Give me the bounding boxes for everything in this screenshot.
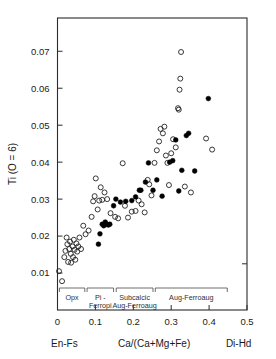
data-point-open xyxy=(169,151,174,156)
x-tick-label: 0 xyxy=(55,316,60,327)
data-point-filled xyxy=(98,231,103,236)
data-point-open xyxy=(188,190,193,195)
y-tick-label: 0.07 xyxy=(31,46,50,57)
filled-circle-series xyxy=(96,96,211,246)
field-bracket xyxy=(87,288,114,292)
data-point-open xyxy=(166,183,171,188)
field-bracket xyxy=(155,288,227,292)
data-point-filled xyxy=(133,195,138,200)
data-point-filled xyxy=(129,198,134,203)
data-point-open xyxy=(139,202,144,207)
data-point-open xyxy=(162,124,167,129)
y-tick-label: 0.03 xyxy=(31,194,50,205)
data-point-open xyxy=(62,255,67,260)
data-point-open xyxy=(178,76,183,81)
y-tick-label: 0.06 xyxy=(31,83,50,94)
field-brackets xyxy=(59,288,227,292)
x-axis-title: Ca/(Ca+Mg+Fe) xyxy=(118,338,190,349)
data-point-open xyxy=(210,147,215,152)
y-axis-title: Ti (O = 6) xyxy=(7,143,18,185)
data-point-open xyxy=(93,176,98,181)
data-point-open xyxy=(98,185,103,190)
data-point-filled xyxy=(160,194,165,199)
data-point-filled xyxy=(113,197,118,202)
field-bracket-labels: OpxPi -FerropiSubcalcicAug-FerroaugAug-F… xyxy=(65,293,213,310)
data-point-open xyxy=(120,161,125,166)
data-point-filled xyxy=(179,168,184,173)
open-circle-series xyxy=(57,50,215,284)
data-point-open xyxy=(157,139,162,144)
data-point-open xyxy=(125,215,130,220)
data-point-open xyxy=(60,279,65,284)
data-point-open xyxy=(152,160,157,165)
data-point-open xyxy=(182,184,187,189)
data-point-filled xyxy=(143,180,148,185)
data-point-filled xyxy=(206,96,211,101)
data-point-filled xyxy=(192,169,197,174)
x-tick-labels: 00.10.20.30.40.5 xyxy=(55,316,254,327)
y-tick-label: 0.01 xyxy=(31,267,50,278)
data-point-open xyxy=(92,194,97,199)
data-point-open xyxy=(77,235,82,240)
data-point-filled xyxy=(173,138,178,143)
field-bracket xyxy=(59,288,84,292)
data-point-filled xyxy=(123,199,128,204)
data-point-open xyxy=(108,211,113,216)
data-point-open xyxy=(160,131,165,136)
data-point-open xyxy=(154,148,159,153)
data-point-filled xyxy=(176,189,181,194)
field-bracket-label: Opx xyxy=(65,293,79,302)
data-point-open xyxy=(116,216,121,221)
data-point-open xyxy=(179,50,184,55)
field-bracket xyxy=(116,288,153,292)
x-tick-label: 0.3 xyxy=(165,316,178,327)
data-point-open xyxy=(204,136,209,141)
data-point-filled xyxy=(118,200,123,205)
x-tick-label: 0.1 xyxy=(89,316,102,327)
data-point-open xyxy=(177,87,182,92)
data-point-filled xyxy=(170,158,175,163)
y-tick-labels: 0.010.020.030.040.050.060.07 xyxy=(31,46,50,279)
axis-ticks xyxy=(58,51,248,310)
plot-svg: 0.010.020.030.040.050.060.07 00.10.20.30… xyxy=(0,0,276,359)
data-point-open xyxy=(173,145,178,150)
field-bracket-label: Ferropi xyxy=(89,301,112,310)
axis-end-label-right: Di-Hd xyxy=(226,338,252,349)
y-tick-label: 0.05 xyxy=(31,120,50,131)
data-point-open xyxy=(91,199,96,204)
data-point-filled xyxy=(107,222,112,227)
data-point-open xyxy=(122,203,127,208)
x-tick-label: 0.2 xyxy=(127,316,140,327)
data-point-open xyxy=(100,197,105,202)
y-tick-label: 0.02 xyxy=(31,230,50,241)
data-point-open xyxy=(95,207,100,212)
data-point-filled xyxy=(186,131,191,136)
x-tick-label: 0.4 xyxy=(202,316,215,327)
data-point-open xyxy=(81,223,86,228)
y-tick-label: 0.04 xyxy=(31,157,50,168)
data-point-open xyxy=(86,228,91,233)
data-point-filled xyxy=(146,160,151,165)
data-point-filled xyxy=(138,188,143,193)
data-point-open xyxy=(142,210,147,215)
scatter-plot-figure: 0.010.020.030.040.050.060.07 00.10.20.30… xyxy=(0,0,276,359)
data-point-open xyxy=(113,214,118,219)
axis-end-label-left: En-Fs xyxy=(51,338,78,349)
field-bracket-label: Aug-Ferroaug xyxy=(169,293,213,302)
data-point-open xyxy=(102,190,107,195)
data-point-open xyxy=(105,197,110,202)
x-tick-label: 0.5 xyxy=(240,316,253,327)
data-point-filled xyxy=(154,177,159,182)
data-point-filled xyxy=(96,242,101,247)
data-point-open xyxy=(163,153,168,158)
data-point-filled xyxy=(111,203,116,208)
data-point-filled xyxy=(151,188,156,193)
data-point-open xyxy=(89,214,94,219)
field-bracket-label: Aug-Ferroaug xyxy=(112,301,156,310)
data-point-open xyxy=(149,193,154,198)
